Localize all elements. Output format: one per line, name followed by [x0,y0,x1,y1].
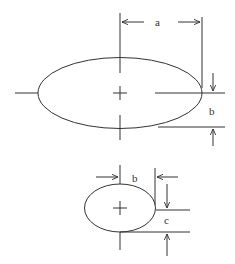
dim-b-label-large: b [209,105,215,117]
dim-b-label-small: b [132,172,138,184]
dim-c-label: c [164,214,169,226]
dim-a-label: a [155,16,160,28]
ellipse-dimension-diagram: a b b c [0,0,235,264]
large-ellipse-group [15,13,225,146]
